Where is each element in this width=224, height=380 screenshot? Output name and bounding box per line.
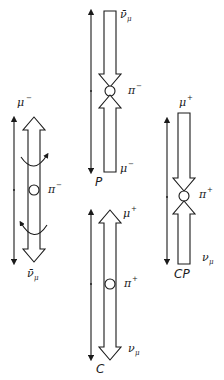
caption-p: P	[95, 175, 103, 189]
label-antinu: ν̄	[120, 8, 127, 21]
label-antinu: ν̄	[27, 267, 34, 280]
label-mu-minus-charge: −	[26, 94, 32, 102]
caption-cp: CP	[174, 267, 190, 281]
panel-charge-conjugation: μ + π + ν μ C	[90, 205, 140, 376]
panel-parity: ν̄ μ π − μ − P	[90, 8, 142, 189]
label-mu-plus: μ	[123, 207, 130, 220]
label-mu-minus: μ	[120, 162, 127, 175]
spin-arrow-up	[99, 95, 121, 172]
label-pi-minus-charge: −	[136, 82, 142, 90]
pion-circle	[29, 185, 39, 195]
axis-midpoint-dot	[90, 90, 92, 92]
label-pi-plus-charge: +	[207, 186, 213, 194]
label-nu-subscript: μ	[135, 349, 140, 357]
label-pi-plus: π	[123, 277, 132, 290]
caption-c: C	[96, 362, 105, 376]
panel-original: μ − π − ν̄ μ	[13, 94, 62, 282]
label-pi-plus-charge: +	[132, 275, 138, 283]
label-pi-minus: π	[127, 84, 136, 97]
label-nu: ν	[128, 342, 135, 355]
label-mu-plus: μ	[179, 96, 186, 109]
label-antinu-subscript: μ	[34, 274, 39, 282]
panel-cp: μ + π + ν μ CP	[166, 94, 214, 281]
label-pi-minus: π	[47, 183, 56, 196]
spin-arrow-up	[173, 201, 195, 264]
label-nu-subscript: μ	[209, 258, 214, 266]
axis-midpoint-dot	[13, 189, 15, 191]
label-nu: ν	[202, 251, 209, 264]
pion-decay-diagram: μ − π − ν̄ μ ν̄ μ π − μ − P μ + π + ν μ …	[0, 0, 224, 380]
label-mu-minus: μ	[17, 96, 24, 109]
axis-midpoint-dot	[90, 283, 92, 285]
spin-arrow-down	[173, 113, 195, 191]
spin-arrow-down	[99, 11, 121, 87]
label-antinu-subscript: μ	[127, 15, 132, 23]
label-pi-plus: π	[198, 188, 207, 201]
label-mu-minus-charge: −	[128, 160, 134, 168]
label-mu-plus-charge: +	[131, 205, 137, 213]
pion-circle	[179, 191, 189, 201]
label-mu-plus-charge: +	[187, 94, 193, 102]
label-pi-minus-charge: −	[56, 181, 62, 189]
pion-circle	[105, 279, 115, 289]
axis-midpoint-dot	[166, 196, 168, 198]
